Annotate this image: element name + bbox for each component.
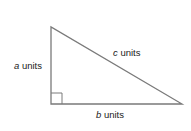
triangle	[51, 27, 182, 104]
side-c-label: c units	[113, 47, 141, 58]
side-b-label: b units	[96, 109, 124, 120]
right-angle-marker	[51, 93, 62, 104]
right-triangle-diagram: a units c units b units	[0, 0, 191, 131]
side-a-label: a units	[14, 60, 42, 71]
